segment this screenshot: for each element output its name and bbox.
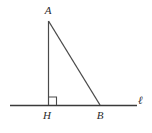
geometry-figure: A H B ℓ	[0, 0, 152, 133]
segment-AB	[49, 21, 101, 105]
vertex-label-h: H	[40, 110, 54, 121]
right-angle-marker-icon	[49, 97, 57, 105]
geometry-canvas	[0, 0, 152, 133]
line-label-l: ℓ	[138, 95, 150, 106]
vertex-label-b: B	[93, 110, 107, 121]
vertex-label-a: A	[41, 5, 55, 16]
